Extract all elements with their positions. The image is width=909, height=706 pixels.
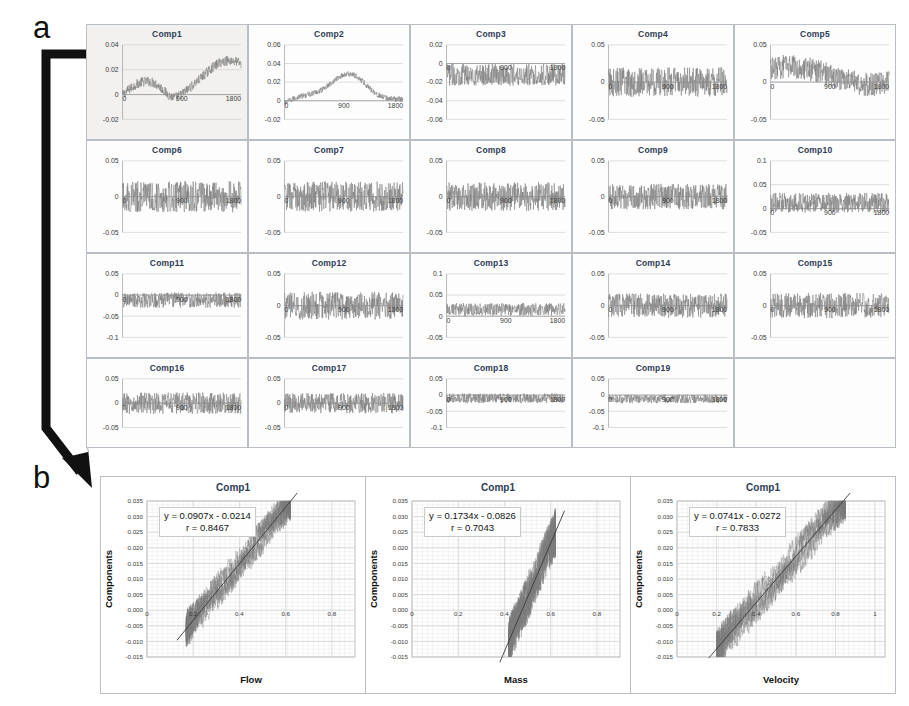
- svg-text:-0.015: -0.015: [125, 653, 143, 660]
- component-chart-comp3[interactable]: Comp30.020-0.02-0.04-0.0609001800: [410, 24, 572, 140]
- component-chart-title: Comp9: [573, 145, 733, 155]
- component-chart-comp5[interactable]: Comp50.050-0.0509001800: [734, 24, 896, 140]
- svg-text:-0.05: -0.05: [103, 229, 119, 236]
- component-chart-plot: 0.050-0.05-0.109001800: [411, 373, 571, 445]
- svg-text:0.05: 0.05: [591, 270, 605, 277]
- component-chart-comp7[interactable]: Comp70.050-0.0509001800: [248, 140, 410, 253]
- svg-text:900: 900: [338, 307, 350, 314]
- svg-text:1800: 1800: [388, 307, 404, 314]
- svg-text:900: 900: [338, 404, 350, 411]
- component-chart-comp14[interactable]: Comp140.050-0.0509001800: [572, 253, 734, 358]
- component-chart-comp10[interactable]: Comp100.10.050-0.0509001800: [734, 140, 896, 253]
- component-chart-comp18[interactable]: Comp180.050-0.05-0.109001800: [410, 358, 572, 448]
- svg-text:0: 0: [115, 91, 119, 98]
- svg-text:0.6: 0.6: [546, 610, 555, 617]
- component-chart-comp1[interactable]: Comp10.040.020-0.0209001800: [86, 24, 248, 140]
- component-chart-title: Comp6: [87, 145, 247, 155]
- component-chart-title: Comp2: [249, 29, 409, 39]
- svg-text:0: 0: [410, 610, 414, 617]
- svg-text:-0.06: -0.06: [427, 116, 443, 123]
- svg-text:900: 900: [176, 198, 188, 205]
- component-chart-title: Comp13: [411, 258, 571, 268]
- svg-text:0: 0: [601, 78, 605, 85]
- component-chart-comp19[interactable]: Comp190.050-0.05-0.109001800: [572, 358, 734, 448]
- component-chart-comp9[interactable]: Comp90.050-0.0509001800: [572, 140, 734, 253]
- component-chart-comp8[interactable]: Comp80.050-0.0509001800: [410, 140, 572, 253]
- svg-text:-0.05: -0.05: [265, 424, 281, 431]
- component-chart-title: Comp12: [249, 258, 409, 268]
- component-chart-plot: 0.050-0.0509001800: [249, 373, 409, 445]
- component-chart-row: Comp110.050-0.05-0.109001800Comp120.050-…: [86, 253, 896, 358]
- svg-text:1800: 1800: [712, 396, 728, 403]
- svg-text:0.035: 0.035: [128, 497, 144, 504]
- svg-text:0.05: 0.05: [267, 270, 281, 277]
- svg-text:0: 0: [277, 97, 281, 104]
- svg-text:0: 0: [285, 307, 289, 314]
- component-chart-comp4[interactable]: Comp40.050-0.0509001800: [572, 24, 734, 140]
- svg-text:0.6: 0.6: [281, 610, 290, 617]
- svg-text:1800: 1800: [712, 83, 728, 90]
- svg-text:0.2: 0.2: [189, 610, 198, 617]
- component-chart-comp17[interactable]: Comp170.050-0.0509001800: [248, 358, 410, 448]
- svg-text:0.015: 0.015: [393, 560, 409, 567]
- component-chart-comp12[interactable]: Comp120.050-0.0509001800: [248, 253, 410, 358]
- svg-text:-0.05: -0.05: [103, 424, 119, 431]
- svg-text:-0.05: -0.05: [589, 408, 605, 415]
- svg-text:0.005: 0.005: [658, 591, 674, 598]
- regression-chart-flow[interactable]: Comp10.0350.0300.0250.0200.0150.0100.005…: [101, 477, 366, 693]
- svg-text:0.8: 0.8: [831, 610, 840, 617]
- svg-text:-0.05: -0.05: [589, 229, 605, 236]
- svg-text:0.05: 0.05: [591, 157, 605, 164]
- component-chart-comp15[interactable]: Comp150.050-0.0509001800: [734, 253, 896, 358]
- regression-chart-velocity[interactable]: Comp10.0350.0300.0250.0200.0150.0100.005…: [631, 477, 895, 693]
- svg-text:0.020: 0.020: [128, 544, 144, 551]
- component-chart-comp6[interactable]: Comp60.050-0.0509001800: [86, 140, 248, 253]
- svg-text:0.05: 0.05: [429, 291, 443, 298]
- component-chart-plot: 0.050-0.0509001800: [249, 268, 409, 355]
- svg-text:900: 900: [662, 396, 674, 403]
- svg-text:0: 0: [763, 205, 767, 212]
- component-chart-plot: 0.050-0.0509001800: [87, 373, 247, 445]
- svg-text:-0.010: -0.010: [390, 638, 408, 645]
- svg-text:1800: 1800: [550, 396, 566, 403]
- svg-text:-0.005: -0.005: [655, 622, 673, 629]
- component-chart-plot: 0.050-0.05-0.109001800: [573, 373, 733, 445]
- svg-text:0: 0: [285, 404, 289, 411]
- component-chart-comp2[interactable]: Comp20.060.040.020-0.0209001800: [248, 24, 410, 140]
- svg-text:0: 0: [145, 610, 149, 617]
- component-chart-comp16[interactable]: Comp160.050-0.0509001800: [86, 358, 248, 448]
- svg-text:0.005: 0.005: [128, 591, 144, 598]
- svg-text:0.05: 0.05: [267, 375, 281, 382]
- svg-text:0: 0: [601, 193, 605, 200]
- component-chart-plot: 0.050-0.0509001800: [573, 268, 733, 355]
- component-chart-plot: 0.020-0.02-0.04-0.0609001800: [411, 39, 571, 137]
- svg-text:-0.05: -0.05: [751, 334, 767, 341]
- svg-text:-0.05: -0.05: [751, 229, 767, 236]
- svg-text:1: 1: [873, 610, 877, 617]
- svg-text:0.010: 0.010: [393, 575, 409, 582]
- svg-text:1800: 1800: [550, 317, 566, 324]
- svg-text:-0.010: -0.010: [655, 638, 673, 645]
- svg-text:-0.02: -0.02: [427, 78, 443, 85]
- svg-text:900: 900: [176, 296, 188, 303]
- component-chart-comp11[interactable]: Comp110.050-0.05-0.109001800: [86, 253, 248, 358]
- svg-text:0.8: 0.8: [593, 610, 602, 617]
- component-chart-title: Comp18: [411, 363, 571, 373]
- panel-a-components-grid: Comp10.040.020-0.0209001800Comp20.060.04…: [86, 24, 896, 448]
- svg-text:1800: 1800: [550, 64, 566, 71]
- regression-chart-mass[interactable]: Comp10.0350.0300.0250.0200.0150.0100.005…: [366, 477, 631, 693]
- svg-text:1800: 1800: [550, 198, 566, 205]
- component-chart-comp13[interactable]: Comp130.10.050-0.0509001800: [410, 253, 572, 358]
- svg-text:-0.015: -0.015: [390, 653, 408, 660]
- svg-text:0: 0: [447, 317, 451, 324]
- svg-text:1800: 1800: [226, 404, 242, 411]
- svg-text:0: 0: [439, 60, 443, 67]
- svg-text:0: 0: [115, 400, 119, 407]
- svg-text:0.4: 0.4: [752, 610, 761, 617]
- component-chart-row: Comp160.050-0.0509001800Comp170.050-0.05…: [86, 358, 896, 448]
- svg-text:1800: 1800: [226, 95, 242, 102]
- svg-text:-0.1: -0.1: [593, 424, 605, 431]
- component-chart-title: Comp19: [573, 363, 733, 373]
- svg-text:900: 900: [662, 83, 674, 90]
- regression-chart-title: Comp1: [101, 482, 365, 493]
